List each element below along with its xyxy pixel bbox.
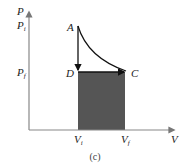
pressure-final-label: Pf [16,66,27,80]
point-d-label: D [65,67,74,79]
point-c-label: C [131,67,139,79]
path-a-to-c-isotherm [78,26,126,71]
pressure-initial-label: Pi [16,19,26,33]
volume-final-label: Vf [121,133,131,147]
figure-caption: (c) [89,151,100,163]
volume-initial-label: Vi [74,133,83,147]
y-axis-label: P [16,5,24,17]
x-axis-label: V [171,133,179,145]
pv-diagram: P Pi Pf A D C Vi Vf V (c) [0,0,189,167]
work-area-shaded [78,72,125,130]
point-a-label: A [66,21,74,33]
